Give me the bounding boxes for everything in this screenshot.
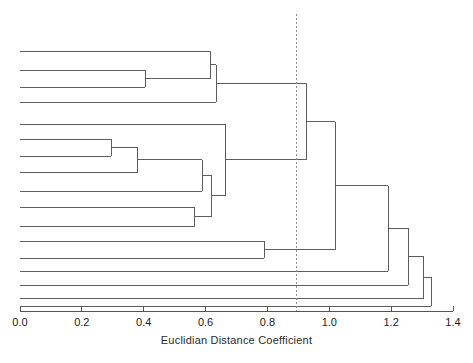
x-axis-tick-label: 0.4 xyxy=(124,316,164,328)
x-axis-tick-label: 1.4 xyxy=(433,316,473,328)
x-axis-tick-label: 1.2 xyxy=(371,316,411,328)
x-axis-tick-label: 0.8 xyxy=(247,316,287,328)
x-axis-tick-label: 0.0 xyxy=(0,316,40,328)
x-axis-tick-label: 0.6 xyxy=(186,316,226,328)
dendrogram-plot: 0.00.20.40.60.81.01.21.4 Euclidian Dista… xyxy=(0,0,473,363)
dendrogram-links xyxy=(20,51,431,306)
dendrogram-canvas xyxy=(0,0,473,363)
x-axis xyxy=(20,306,453,311)
x-axis-tick-label: 0.2 xyxy=(62,316,102,328)
x-axis-title: Euclidian Distance Coefficient xyxy=(0,334,473,346)
x-axis-tick-label: 1.0 xyxy=(309,316,349,328)
